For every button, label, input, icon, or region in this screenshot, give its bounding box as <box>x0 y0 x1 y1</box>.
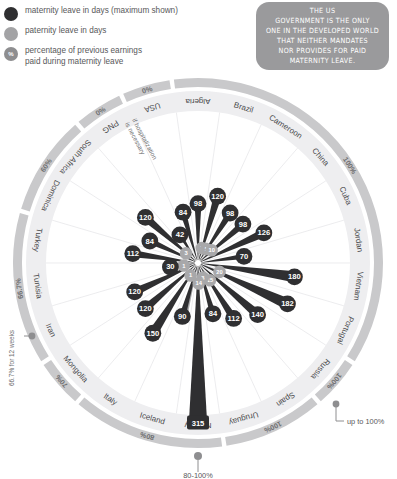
paternity-value-text: 14 <box>196 280 203 286</box>
legend-item-paternity: paternity leave in days <box>4 26 214 41</box>
maternity-value-text: 120 <box>139 304 152 313</box>
maternity-value-text: 150 <box>147 329 160 338</box>
legend-label-maternity: maternity leave in days (maximum shown) <box>25 6 178 17</box>
maternity-value-text: 315 <box>192 419 205 428</box>
sector-divider <box>203 266 326 345</box>
legend-item-maternity: maternity leave in days (maximum shown) <box>4 6 214 21</box>
paternity-value-text: 10 <box>208 247 214 253</box>
maternity-value-text: 112 <box>228 314 240 323</box>
maternity-value-text: 112 <box>127 249 139 258</box>
maternity-dot-icon <box>4 7 18 21</box>
maternity-value-text: 126 <box>258 228 271 237</box>
maternity-value-text: 180 <box>288 272 301 281</box>
leader-line <box>336 407 344 421</box>
maternity-value-text: 90 <box>178 312 186 321</box>
maternity-value-text: 140 <box>251 310 264 319</box>
maternity-value-text: 120 <box>211 192 224 201</box>
paternity-value-text: 20 <box>216 269 222 275</box>
percent-tick-label: 66.7% <box>13 277 25 299</box>
paternity-dot-icon <box>4 27 18 41</box>
maternity-value-text: 182 <box>281 299 294 308</box>
maternity-value-text: 42 <box>176 230 184 239</box>
country-label: Algeria <box>185 97 210 106</box>
maternity-value-text: 98 <box>239 220 247 229</box>
annotation: up to 100% <box>347 417 385 426</box>
infographic-root: maternity leave in days (maximum shown) … <box>0 0 397 479</box>
maternity-value-text: 70 <box>240 252 248 261</box>
maternity-value-text: 98 <box>226 209 234 218</box>
maternity-value-text: 30 <box>166 262 174 271</box>
maternity-value-text: 120 <box>139 213 152 222</box>
legend-label-paternity: paternity leave in days <box>25 26 106 37</box>
annotation: 80-100% <box>183 471 213 479</box>
leader-dot <box>333 401 340 408</box>
maternity-value-text: 120 <box>128 287 141 296</box>
maternity-value-text: 84 <box>179 208 188 217</box>
sector-divider <box>70 266 193 345</box>
radial-chart: 0%100%100%100%80%70%66.7%60%0%USAAlgeria… <box>0 58 397 479</box>
maternity-value-text: 84 <box>209 309 218 318</box>
annotation: if hospitalizationis necessary <box>123 117 159 165</box>
maternity-value-text: 84 <box>146 237 155 246</box>
percent-glyph: % <box>8 51 13 57</box>
maternity-value-text: 98 <box>194 199 202 208</box>
leader-dot <box>194 452 202 460</box>
annotation: 66.7% for 12 weeks <box>8 330 15 386</box>
